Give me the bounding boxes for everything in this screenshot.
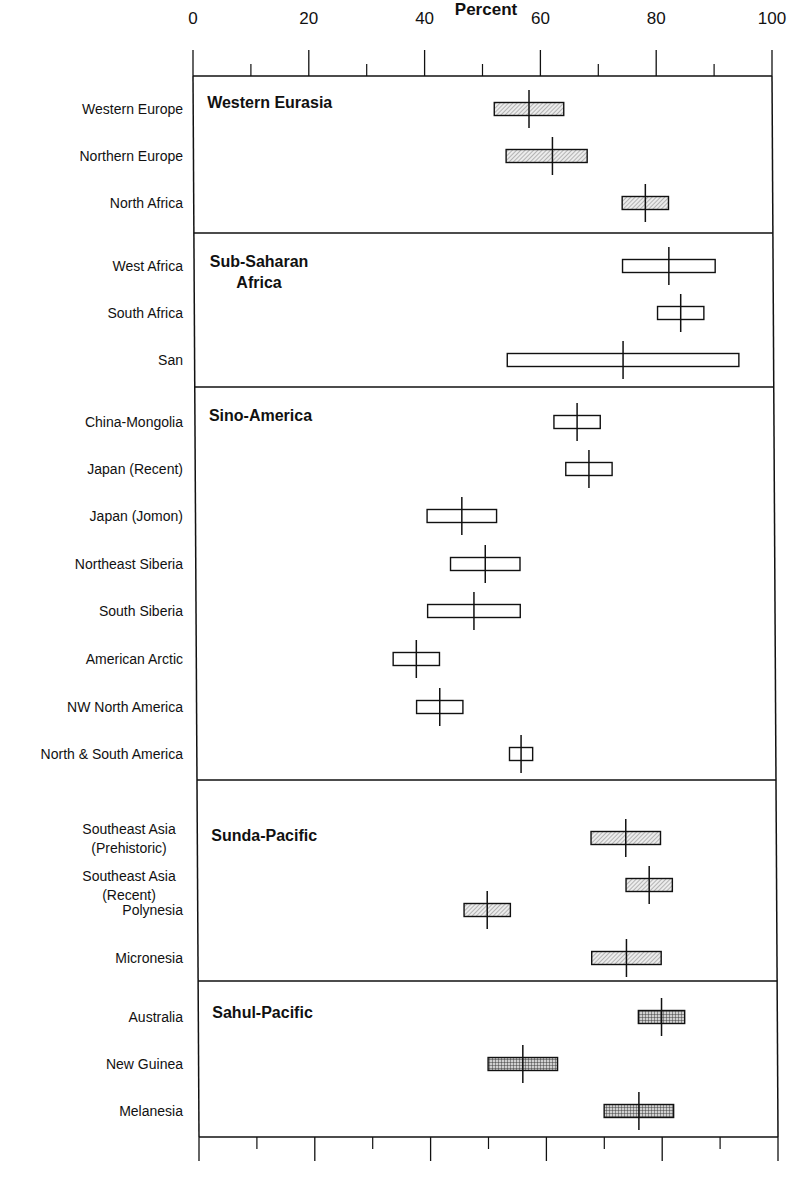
row-label: North Africa: [110, 195, 183, 211]
data-row: Melanesia: [119, 1092, 673, 1130]
data-row: Polynesia: [122, 891, 510, 929]
bottom-axis: [199, 1137, 778, 1161]
row-label: Micronesia: [115, 950, 183, 966]
section-sub-saharan-africa: Sub-SaharanAfricaWest AfricaSouth Africa…: [108, 247, 739, 379]
tick-label: 20: [299, 9, 318, 28]
row-label: Northeast Siberia: [75, 556, 183, 572]
section-title: Africa: [236, 274, 281, 291]
row-label: American Arctic: [86, 651, 183, 667]
row-label: NW North America: [67, 699, 183, 715]
data-row: American Arctic: [86, 640, 440, 678]
data-row: Southeast Asia(Recent): [82, 866, 672, 904]
row-label: Melanesia: [119, 1103, 183, 1119]
row-label: Japan (Jomon): [90, 508, 183, 524]
data-row: Japan (Jomon): [90, 497, 497, 535]
top-axis: 020406080100Percent: [188, 0, 786, 76]
data-row: NW North America: [67, 688, 463, 726]
data-row: North & South America: [41, 735, 533, 773]
tick-label: 0: [188, 9, 197, 28]
row-label: North & South America: [41, 746, 184, 762]
row-label: (Recent): [102, 887, 156, 903]
data-row: China-Mongolia: [85, 403, 600, 441]
range-box: [506, 150, 587, 163]
row-label: South Africa: [108, 305, 184, 321]
data-row: Northern Europe: [79, 137, 587, 175]
section-title: Sub-Saharan: [210, 253, 309, 270]
tick-label: 40: [415, 9, 434, 28]
data-row: Japan (Recent): [87, 450, 612, 488]
row-label: Southeast Asia: [82, 821, 176, 837]
x-axis-title: Percent: [455, 0, 518, 19]
data-row: New Guinea: [106, 1045, 558, 1083]
row-label: New Guinea: [106, 1056, 183, 1072]
section-sino-america: Sino-AmericaChina-MongoliaJapan (Recent)…: [41, 403, 613, 773]
row-label: Polynesia: [122, 902, 183, 918]
section-title: Sino-America: [209, 407, 312, 424]
row-label: (Prehistoric): [91, 840, 166, 856]
row-label: Western Europe: [82, 101, 183, 117]
tick-label: 100: [758, 9, 786, 28]
section-title: Western Eurasia: [207, 94, 332, 111]
data-row: South Siberia: [99, 592, 520, 630]
range-chart: 020406080100Percent Western EurasiaWeste…: [0, 0, 798, 1188]
sections: Western EurasiaWestern EuropeNorthern Eu…: [41, 90, 739, 1130]
tick-label: 60: [531, 9, 550, 28]
row-label: San: [158, 352, 183, 368]
data-row: San: [158, 341, 739, 379]
data-row: West Africa: [112, 247, 715, 285]
row-label: South Siberia: [99, 603, 183, 619]
row-label: West Africa: [112, 258, 183, 274]
data-row: South Africa: [108, 294, 704, 332]
row-label: Australia: [129, 1009, 184, 1025]
data-row: Northeast Siberia: [75, 545, 520, 583]
section-western-eurasia: Western EurasiaWestern EuropeNorthern Eu…: [79, 90, 668, 222]
section-title: Sunda-Pacific: [211, 827, 317, 844]
data-row: Southeast Asia(Prehistoric): [82, 819, 660, 857]
row-label: Japan (Recent): [87, 461, 183, 477]
row-label: Southeast Asia: [82, 868, 176, 884]
row-label: Northern Europe: [79, 148, 183, 164]
section-sahul-pacific: Sahul-PacificAustraliaNew GuineaMelanesi…: [106, 998, 685, 1130]
section-sunda-pacific: Sunda-PacificSoutheast Asia(Prehistoric)…: [82, 819, 672, 977]
tick-label: 80: [647, 9, 666, 28]
row-label: China-Mongolia: [85, 414, 183, 430]
section-title: Sahul-Pacific: [212, 1004, 313, 1021]
